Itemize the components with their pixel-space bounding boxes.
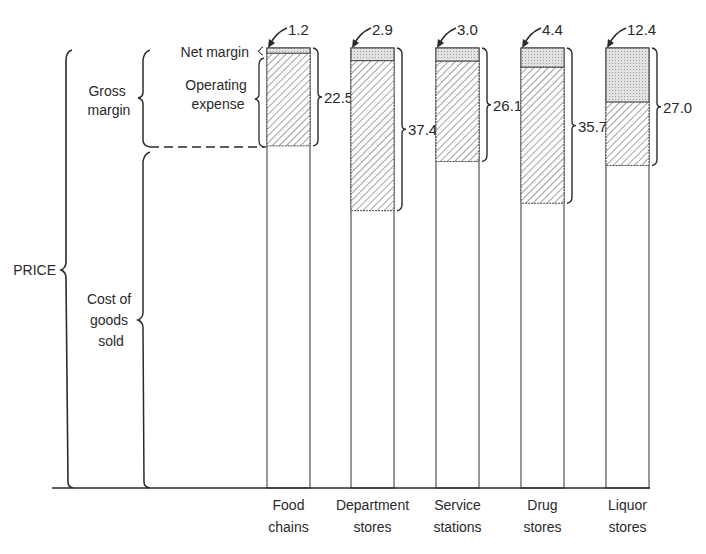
- net-margin-segment: [351, 48, 394, 61]
- gross-margin-value: 26.1: [493, 97, 522, 114]
- gross-margin-value: 37.4: [408, 121, 437, 138]
- gross-margin-brace: [138, 50, 150, 147]
- net-margin-label: Net margin: [181, 44, 249, 60]
- price-label: PRICE: [13, 262, 56, 278]
- operating-expense-segment: [521, 67, 564, 203]
- operating-expense-segment: [606, 102, 649, 166]
- gross-margin-value: 22.5: [324, 89, 353, 106]
- net-margin-segment: [267, 48, 310, 53]
- bars-group: 22.51.237.42.926.13.035.74.427.012.4: [267, 21, 692, 488]
- gross-margin-brace: [397, 48, 406, 211]
- category-label: Foodchains: [268, 497, 308, 535]
- operating-expense-segment: [351, 61, 394, 211]
- gross-margin-brace: [313, 48, 322, 146]
- net-margin-value: 3.0: [457, 21, 478, 38]
- gross-margin-value: 35.7: [578, 118, 607, 135]
- gross-margin-brace: [482, 48, 491, 162]
- gross-margin-value: 27.0: [663, 99, 692, 116]
- category-label: Drugstores: [523, 497, 561, 535]
- gross-margin-brace: [567, 48, 576, 203]
- operating-expense-brace: [255, 58, 264, 147]
- category-label: Servicestations: [433, 497, 481, 535]
- gross-margin-brace: [652, 48, 661, 165]
- net-margin-segment: [436, 48, 479, 61]
- bar-department-stores: 37.42.9: [351, 21, 437, 488]
- net-margin-value: 12.4: [627, 21, 656, 38]
- cost-of-goods-brace: [138, 152, 150, 488]
- net-margin-segment: [521, 48, 564, 67]
- bar-liquor-stores: 27.012.4: [606, 21, 692, 488]
- operating-expense-segment: [436, 61, 479, 161]
- net-margin-value: 1.2: [288, 21, 309, 38]
- bar-service-stations: 26.13.0: [436, 21, 522, 488]
- net-margin-segment: [606, 48, 649, 102]
- price-composition-chart: PRICE Gross margin Cost of goods sold Ne…: [0, 0, 706, 554]
- operating-expense-segment: [267, 53, 310, 146]
- category-labels: FoodchainsDepartmentstoresServicestation…: [268, 497, 647, 535]
- cost-of-goods-label: Cost of goods sold: [87, 291, 135, 349]
- net-margin-value: 2.9: [372, 21, 393, 38]
- category-label: Departmentstores: [336, 497, 409, 535]
- gross-margin-label: Gross margin: [88, 83, 131, 118]
- price-brace: [61, 50, 73, 488]
- bar-drug-stores: 35.74.4: [521, 21, 607, 488]
- operating-expense-label: Operating expense: [185, 77, 250, 112]
- net-margin-value: 4.4: [542, 21, 563, 38]
- left-annotations: PRICE Gross margin Cost of goods sold Ne…: [13, 44, 266, 488]
- bar-food-chains: 22.51.2: [267, 21, 353, 488]
- net-margin-brace: [258, 47, 263, 55]
- category-label: Liquorstores: [608, 497, 647, 535]
